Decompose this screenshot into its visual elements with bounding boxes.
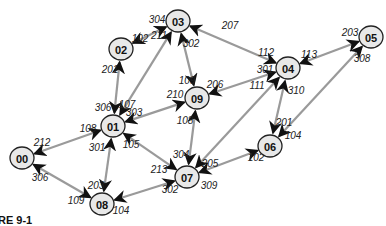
- node-label: 01: [107, 121, 119, 133]
- edge-weight-label: 213: [150, 164, 168, 175]
- node-label: 06: [264, 141, 276, 153]
- node-08: 08: [90, 193, 114, 215]
- edge-weight-label: 201: [275, 117, 293, 128]
- node-05: 05: [359, 26, 383, 48]
- node-label: 09: [191, 93, 203, 105]
- network-graph: 2121083061093062011072113032101052133012…: [0, 0, 386, 226]
- edge-weight-label: 102: [132, 33, 149, 44]
- edge-weight-label: 111: [249, 80, 264, 91]
- edge-labels-layer: 2121083061093062011072113032101052133012…: [32, 14, 371, 216]
- edge-weight-label: 308: [354, 53, 371, 64]
- node-03: 03: [166, 10, 190, 32]
- edge-weight-label: 301: [257, 64, 274, 75]
- node-label: 03: [172, 16, 184, 28]
- node-02: 02: [109, 38, 133, 60]
- edge-weight-label: 304: [149, 14, 166, 25]
- edge-weight-label: 203: [341, 27, 359, 38]
- node-label: 00: [16, 153, 28, 165]
- edge-weight-label: 207: [221, 20, 239, 31]
- edge-weight-label: 210: [166, 89, 184, 100]
- node-09: 09: [185, 87, 209, 109]
- edge-weight-label: 303: [126, 107, 143, 118]
- edge-weight-label: 104: [113, 205, 130, 216]
- edge-weight-label: 211: [150, 30, 167, 41]
- node-07: 07: [175, 166, 199, 188]
- edge-weight-label: 302: [162, 184, 179, 195]
- edge-weight-label: 304: [173, 149, 190, 160]
- edge-weight-label: 109: [179, 75, 196, 86]
- figure-caption: RE 9-1: [0, 214, 32, 226]
- edge-weight-label: 306: [95, 102, 112, 113]
- edge-weight-label: 113: [301, 49, 317, 60]
- edge-weight-label: 206: [206, 79, 224, 90]
- edge-weight-label: 105: [123, 139, 140, 150]
- edge-weight-label: 212: [33, 137, 51, 148]
- node-label: 07: [181, 172, 193, 184]
- node-label: 04: [282, 63, 295, 75]
- node-01: 01: [101, 115, 125, 137]
- node-06: 06: [258, 135, 282, 157]
- node-00: 00: [10, 147, 34, 169]
- edge-weight-label: 302: [183, 38, 200, 49]
- edge-weight-label: 306: [32, 172, 49, 183]
- node-label: 08: [96, 199, 108, 211]
- edge-weight-label: 109: [68, 195, 85, 206]
- edge-weight-label: 201: [101, 64, 119, 75]
- edge-weight-label: 205: [201, 158, 219, 169]
- edge-weight-label: 108: [80, 123, 97, 134]
- node-label: 02: [115, 44, 127, 56]
- edge-weight-label: 108: [177, 115, 194, 126]
- edge-weight-label: 203: [87, 180, 105, 191]
- edge-weight-label: 309: [201, 180, 218, 191]
- edge-weight-label: 310: [288, 85, 305, 96]
- node-04: 04: [276, 57, 300, 79]
- node-label: 05: [365, 32, 377, 44]
- edge-weight-label: 301: [89, 142, 106, 153]
- edge-weight-label: 104: [285, 130, 302, 141]
- edge-weight-label: 112: [258, 47, 274, 58]
